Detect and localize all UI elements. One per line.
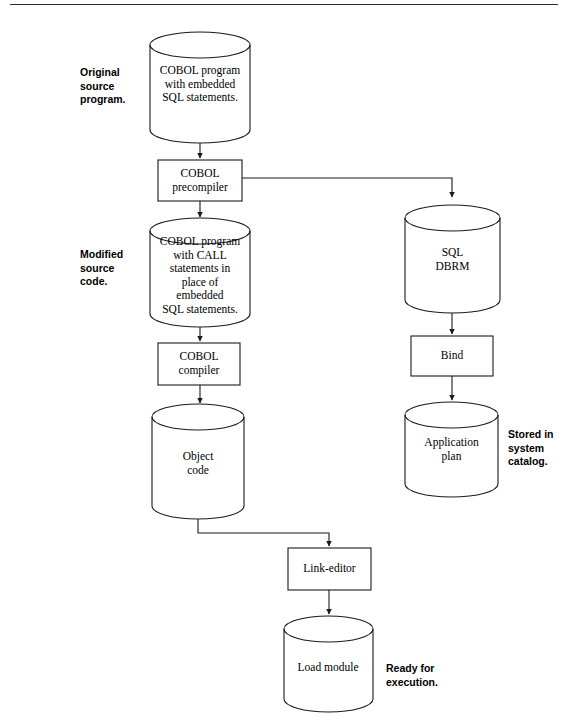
edge-object-code-to-link-editor [198,519,329,546]
node-label-source-program: COBOL program with embedded SQL statemen… [150,64,250,105]
node-label-link-editor: Link-editor [288,562,371,576]
node-label-cobol-precompiler: COBOL precompiler [158,167,242,194]
node-label-sql-dbrm: SQL DBRM [405,246,500,273]
edge-precompiler-to-sql-dbrm [242,178,452,197]
node-label-modified-source: COBOL program with CALL statements in pl… [150,235,250,316]
annotation-original-source-program: Original source program. [80,66,150,107]
node-label-application-plan: Application plan [405,436,498,463]
node-label-bind: Bind [411,349,493,363]
annotation-ready-for-execution: Ready for execution. [386,662,466,689]
node-label-object-code: Object code [152,450,244,477]
annotation-stored-in-system-catalog: Stored in system catalog. [508,428,567,469]
flowchart-page: COBOL program with embedded SQL statemen… [0,0,567,720]
annotation-modified-source-code: Modified source code. [80,248,150,289]
node-label-cobol-compiler: COBOL compiler [158,350,240,377]
node-label-load-module: Load module [283,661,373,675]
